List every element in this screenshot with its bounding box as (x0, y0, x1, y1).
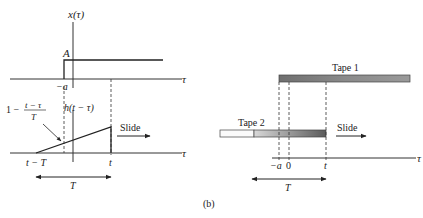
slide-label-right: Slide (337, 122, 358, 133)
tau-label-bottom: τ (182, 147, 187, 159)
tick-zero: 0 (286, 160, 291, 171)
tape-1 (279, 75, 410, 82)
step-start-label: −a (56, 81, 68, 92)
kernel-plot: h(t − τ) 1 − t − τ T Slide τ t − T t T (6, 100, 187, 191)
tape-2-blank (220, 130, 254, 137)
tape-1-label: Tape 1 (332, 62, 359, 73)
ramp-label-denominator: T (31, 112, 37, 122)
kernel-label: h(t − τ) (64, 102, 94, 114)
signal-plot: x(τ) A −a τ (10, 8, 187, 92)
left-tick-label: t − T (26, 157, 48, 168)
tick-t: t (324, 160, 327, 171)
step-signal (64, 60, 163, 79)
convolution-diagram: x(τ) A −a τ h(t − τ) 1 − t − τ T Slide τ… (0, 0, 423, 218)
amplitude-label: A (62, 47, 70, 59)
tau-label-top: τ (182, 73, 187, 85)
ramp-label-prefix: 1 − (6, 104, 20, 115)
right-tick-label: t (109, 157, 112, 168)
tape-2 (254, 130, 326, 137)
tape-panel: Tape 1 Tape 2 Slide τ −a 0 t T (220, 62, 422, 193)
ramp-label-numerator: t − τ (25, 100, 42, 110)
span-label-right: T (285, 182, 292, 193)
tape-2-label: Tape 2 (238, 117, 265, 128)
figure-label: (b) (203, 198, 215, 210)
ramp-pointer-arrow (43, 124, 61, 141)
slide-label-left: Slide (120, 122, 141, 133)
tau-label-right: τ (417, 152, 422, 164)
y-axis-label: x(τ) (67, 8, 84, 21)
span-label-left: T (70, 180, 77, 191)
tick-minus-a: −a (270, 160, 282, 171)
